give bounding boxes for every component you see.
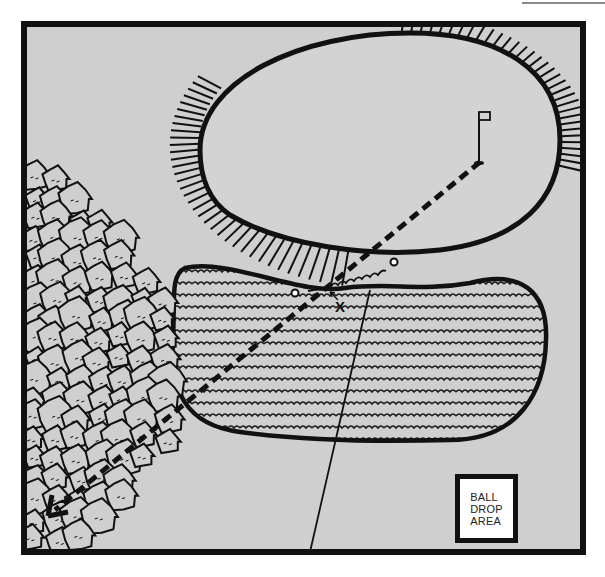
ball-position-label: X (335, 298, 345, 315)
golf-rule-diagram: X BALL DROP AREA (0, 0, 605, 577)
ball-drop-area-box: BALL DROP AREA (455, 474, 518, 543)
ball-start-marker (391, 259, 398, 266)
sand-bunker (170, 262, 550, 447)
ball-end-marker (292, 290, 299, 297)
ball-drop-area-label: BALL DROP AREA (470, 491, 503, 527)
